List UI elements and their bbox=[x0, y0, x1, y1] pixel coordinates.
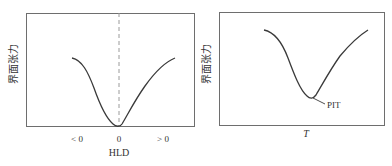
left-tension-curve bbox=[72, 58, 175, 126]
pit-annotation: PIT bbox=[327, 100, 341, 110]
left-xlabel: HLD bbox=[109, 147, 130, 158]
tick-greater-than-zero: > 0 bbox=[157, 134, 169, 144]
tick-zero: 0 bbox=[117, 134, 122, 144]
right-tension-curve bbox=[264, 30, 368, 98]
figure: 界面张力 < 0 0 > 0 HLD PIT 界面张力 T bbox=[0, 0, 392, 166]
right-xlabel: T bbox=[303, 128, 310, 139]
tick-less-than-zero: < 0 bbox=[71, 134, 83, 144]
left-ylabel: 界面张力 bbox=[7, 44, 19, 84]
left-plot-frame bbox=[27, 14, 195, 127]
pit-leader-line bbox=[313, 98, 325, 104]
right-ylabel: 界面张力 bbox=[200, 44, 212, 84]
right-plot-frame bbox=[220, 13, 385, 126]
right-panel: PIT 界面张力 T bbox=[200, 13, 385, 140]
left-panel: 界面张力 < 0 0 > 0 HLD bbox=[7, 13, 195, 158]
